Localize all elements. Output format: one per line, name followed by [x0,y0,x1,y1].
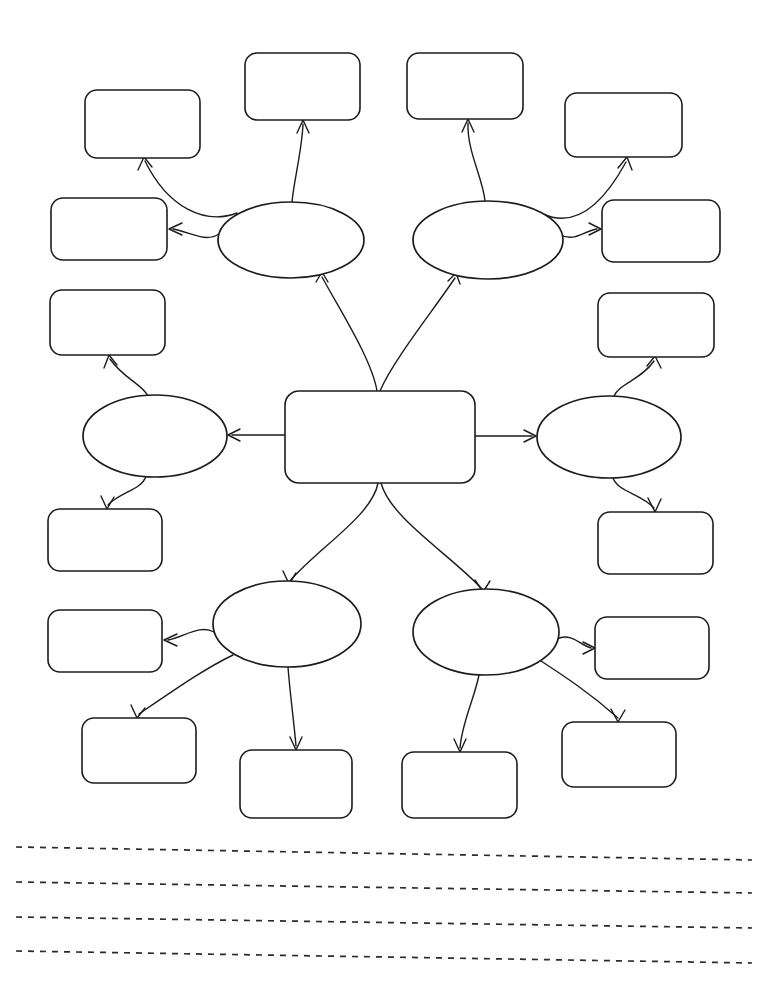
ellipse-outline[interactable] [218,202,364,278]
node-box-bottom-far-left[interactable] [82,718,196,783]
rectangle-outline[interactable] [565,93,682,157]
rectangle-outline[interactable] [245,53,360,120]
connector-line [614,361,654,396]
connector-middle-right-to-upper-box [614,356,661,396]
worksheet-page [0,0,768,1007]
connector-bottom-left-to-center-box [288,667,302,750]
rectangle-outline[interactable] [562,722,676,787]
connector-bottom-left-to-left-box [164,629,214,646]
node-ellipse-bottom-left[interactable] [213,581,361,667]
ellipse-outline[interactable] [83,395,227,477]
rectangle-outline[interactable] [595,617,709,679]
connector-center-to-bottom-right [381,483,490,592]
rectangle-outline[interactable] [48,509,162,571]
rectangle-outline[interactable] [240,750,352,818]
connector-center-to-top-left [316,272,377,391]
rectangle-outline[interactable] [48,610,162,672]
node-box-right-upper[interactable] [602,200,720,262]
rectangle-outline[interactable] [50,290,165,355]
connector-bottom-right-to-center-box [454,675,479,752]
node-box-right-lower[interactable] [595,617,709,679]
node-box-right-middle-upper[interactable] [598,293,714,357]
rectangle-outline[interactable] [402,752,517,818]
writing-line-4[interactable] [16,951,752,963]
concept-map-canvas [0,0,768,1007]
node-box-bottom-center-right[interactable] [402,752,517,818]
node-ellipse-bottom-right[interactable] [413,589,559,675]
node-box-top-center-right[interactable] [407,53,523,119]
connector-center-to-middle-left [228,429,285,441]
rectangle-outline[interactable] [82,718,196,783]
connector-line [108,476,146,505]
connector-line [613,478,654,508]
connector-top-left-to-left-box [169,223,219,237]
node-ellipse-middle-right[interactable] [537,396,681,478]
rectangle-outline[interactable] [407,53,523,119]
node-box-left-lower[interactable] [48,610,162,672]
connector-line [110,359,148,396]
node-box-bottom-far-right[interactable] [562,722,676,787]
node-box-top-far-right[interactable] [565,93,682,157]
writing-line-2[interactable] [16,882,752,893]
ellipse-outline[interactable] [413,201,563,279]
connector-top-left-to-box-center [292,120,309,202]
node-box-top-center-left[interactable] [245,53,360,120]
writing-line-1[interactable] [16,847,752,860]
connector-line [292,124,303,202]
node-box-left-middle-lower[interactable] [48,509,162,571]
node-box-left-middle-upper[interactable] [50,290,165,355]
center-node-layer [285,391,475,483]
connector-line [557,637,591,648]
connector-middle-right-to-lower-box [613,478,661,512]
center-rectangle-outline[interactable] [285,391,475,483]
connector-line [173,229,219,237]
connector-center-to-middle-right [475,430,536,442]
connector-line [288,667,296,746]
ellipse-outline[interactable] [213,581,361,667]
writing-lines-layer [16,847,752,963]
connector-line [322,277,377,391]
arrowhead-icon [131,705,145,718]
connector-line [380,278,455,391]
rectangle-outline[interactable] [598,293,714,357]
rectangle-outline[interactable] [598,512,713,574]
node-center-topic[interactable] [285,391,475,483]
node-ellipse-top-right[interactable] [413,201,563,279]
node-ellipse-top-left[interactable] [218,202,364,278]
connector-line [460,675,479,748]
connector-middle-left-to-lower-box [101,476,146,509]
connector-line [468,123,485,201]
node-box-right-middle-lower[interactable] [598,512,713,574]
arrowhead-icon [101,496,114,509]
rectangle-outline[interactable] [602,200,720,262]
writing-line-3[interactable] [16,917,752,928]
rectangle-outline[interactable] [51,198,167,260]
ellipse-outline[interactable] [413,589,559,675]
connector-top-right-to-box-center [462,119,485,201]
arrowhead-icon [611,709,625,722]
node-box-bottom-center-left[interactable] [240,750,352,818]
ellipse-outline[interactable] [537,396,681,478]
arrowhead-icon [138,157,152,170]
connector-bottom-right-to-right-box [557,637,595,654]
connector-top-right-to-right-box [559,223,601,237]
connector-line [381,483,482,589]
connector-middle-left-to-upper-box [104,355,148,396]
connector-line [290,483,378,581]
connector-center-to-top-right [380,273,460,391]
rectangle-outline[interactable] [85,90,200,158]
node-ellipse-middle-left[interactable] [83,395,227,477]
connector-center-to-bottom-left [283,483,378,584]
node-box-top-far-left[interactable] [85,90,200,158]
node-box-left-upper[interactable] [51,198,167,260]
